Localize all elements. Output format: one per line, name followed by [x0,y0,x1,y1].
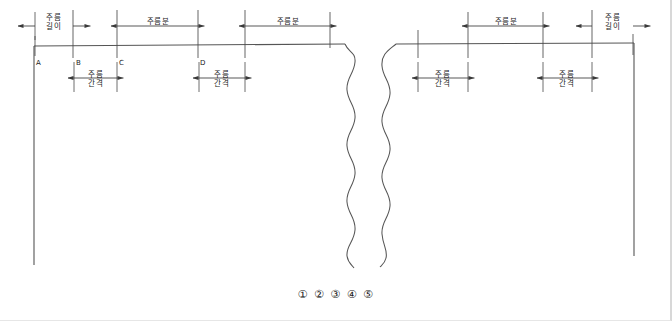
dimension-label-pleat-length-left: 주름 길이 [36,14,72,31]
break-line-right [380,44,396,267]
dimension-label-pleat-interval-right-1: 주름 간격 [425,71,461,88]
dimension-label-pleat-length-right: 주름 길이 [595,14,631,31]
point-label-b: B [76,59,81,67]
dimension-label-pleat-interval-left-1: 주름 간격 [78,71,114,88]
point-label-a: A [36,59,41,67]
point-label-d: D [200,59,205,67]
pleat-tick-lines [35,10,633,58]
break-line-left [345,44,355,268]
point-label-c: C [119,59,124,67]
dimension-label-pleat-interval-right-2: 주름 간격 [549,71,585,88]
dimension-label-pleat-allowance-left-2: 주름분 [263,18,313,27]
waistline-left [34,44,345,46]
pleat-dimension-drawing [0,0,672,321]
dimension-label-pleat-interval-left-2: 주름 간격 [204,71,240,88]
waistline-right [396,43,634,44]
dimension-label-pleat-allowance-left-1: 주름분 [133,18,183,27]
dimension-label-pleat-allowance-right-1: 주름분 [481,18,531,27]
circled-numbers-legend: ① ② ③ ④ ⑤ [0,288,672,301]
